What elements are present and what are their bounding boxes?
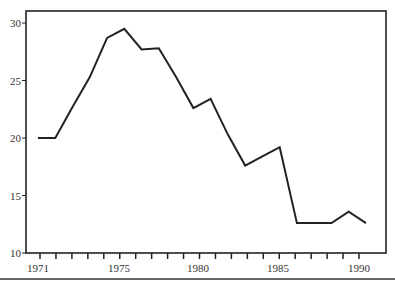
x-axis: 19711975198019851990 xyxy=(27,253,371,274)
x-tick-label: 1980 xyxy=(187,262,210,274)
x-tick-label: 1971 xyxy=(27,262,49,274)
y-tick-label: 15 xyxy=(10,190,22,202)
y-tick-label: 25 xyxy=(10,75,22,87)
bottom-separator xyxy=(0,278,395,280)
line-chart: 1015202530 19711975198019851990 xyxy=(0,0,395,284)
y-tick-label: 10 xyxy=(10,247,22,259)
x-tick-label: 1975 xyxy=(108,262,131,274)
data-series-line xyxy=(38,29,366,223)
y-tick-label: 30 xyxy=(10,17,22,29)
y-axis: 1015202530 xyxy=(10,17,26,259)
x-tick-label: 1985 xyxy=(267,262,290,274)
plot-frame xyxy=(26,11,386,253)
x-tick-label: 1990 xyxy=(348,262,371,274)
y-tick-label: 20 xyxy=(10,132,22,144)
